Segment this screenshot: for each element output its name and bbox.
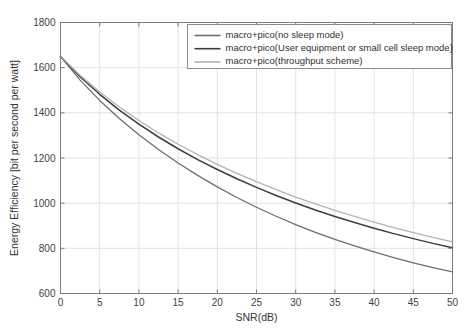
figure-canvas: macro+pico(no sleep mode)macro+pico(User… <box>0 0 474 334</box>
y-axis-title: Energy Efficiency [bit per second per wa… <box>8 60 20 256</box>
x-tick-label: 40 <box>369 297 381 308</box>
x-tick-label: 5 <box>97 297 103 308</box>
x-tick-label: 25 <box>251 297 263 308</box>
y-tick-label: 1000 <box>33 198 56 209</box>
x-tick-label: 20 <box>212 297 224 308</box>
y-tick-label: 1400 <box>33 107 56 118</box>
x-axis-title: SNR(dB) <box>235 311 277 323</box>
y-tick-label: 1800 <box>33 17 56 28</box>
x-tick-label: 30 <box>290 297 302 308</box>
y-tick-label: 800 <box>39 243 56 254</box>
y-tick-label: 1600 <box>33 62 56 73</box>
x-tick-label: 45 <box>408 297 420 308</box>
chart-plot: macro+pico(no sleep mode)macro+pico(User… <box>0 0 474 334</box>
x-tick-label: 15 <box>173 297 185 308</box>
legend-label-1: macro+pico(User equipment or small cell … <box>226 42 453 53</box>
x-tick-label: 35 <box>329 297 341 308</box>
x-tick-label: 10 <box>133 297 145 308</box>
x-tick-label: 0 <box>58 297 64 308</box>
legend-label-0: macro+pico(no sleep mode) <box>226 29 344 40</box>
y-tick-label: 600 <box>39 288 56 299</box>
y-tick-label: 1200 <box>33 153 56 164</box>
legend-label-2: macro+pico(throughput scheme) <box>226 55 363 66</box>
x-tick-label: 50 <box>447 297 459 308</box>
